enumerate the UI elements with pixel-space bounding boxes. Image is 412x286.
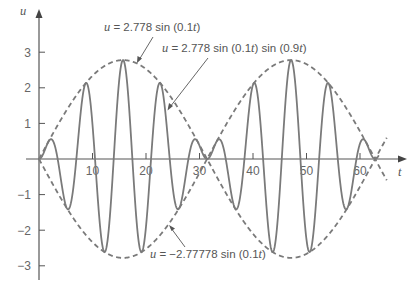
y-tick-label: −2 [17, 224, 31, 238]
x-axis-label: t [398, 165, 402, 179]
y-tick-label: 1 [24, 117, 31, 131]
leader-arrow-icon [169, 225, 175, 231]
y-tick-label: 2 [24, 81, 31, 95]
x-tick-label: 40 [246, 164, 260, 178]
leader-line [170, 58, 208, 107]
annotation-close: ) [303, 42, 307, 54]
annotation-text: = 2.778 sin (0.1 [110, 21, 193, 33]
annotation-mid: ) sin (0.9 [255, 42, 300, 54]
x-tick-label: 30 [193, 164, 207, 178]
y-tick-label: −1 [17, 188, 31, 202]
annotation-close: ) [197, 21, 201, 33]
annotation-text: = −2.77778 sin (0.1 [156, 248, 258, 260]
y-tick-label: 3 [24, 46, 31, 60]
chart: 102030405060 321−1−2−3 t u u = 2.778 sin… [0, 0, 412, 286]
svg-text:u = 2.778 sin (0.1t): u = 2.778 sin (0.1t) [104, 20, 201, 34]
annotation-close: ) [262, 248, 266, 260]
x-tick-label: 10 [86, 164, 100, 178]
y-tick-label: −3 [17, 259, 31, 273]
annotation-text: = 2.778 sin (0.1 [168, 42, 251, 54]
svg-text:u = 2.778 sin (0.1t) sin (0.9t: u = 2.778 sin (0.1t) sin (0.9t) [162, 41, 307, 55]
y-axis-arrow-icon [36, 9, 43, 18]
x-axis-arrow-icon [398, 156, 407, 163]
annotation-lower-envelope: u = −2.77778 sin (0.1t) [150, 225, 266, 261]
y-axis-label: u [20, 4, 26, 18]
leader-line [139, 37, 153, 60]
leader-line [171, 228, 185, 247]
svg-text:u = −2.77778 sin (0.1t): u = −2.77778 sin (0.1t) [150, 247, 266, 261]
